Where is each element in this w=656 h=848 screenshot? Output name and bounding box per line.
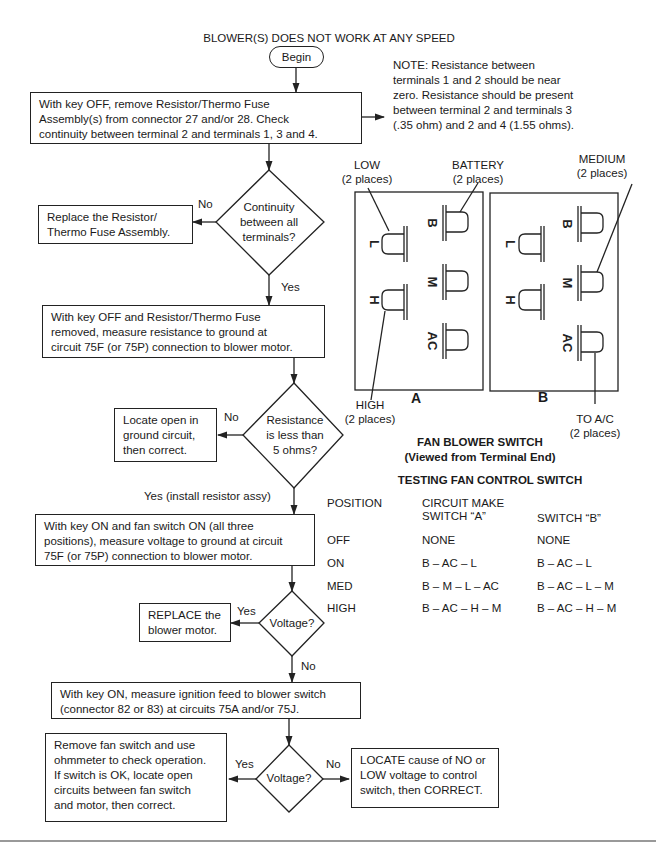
page-title: BLOWER(S) DOES NOT WORK AT ANY SPEED (174, 31, 484, 46)
table-row: OFF NONE NONE (0, 533, 656, 549)
action-line: LOW voltage to control (360, 768, 490, 783)
header-switch-b: SWITCH “B” (537, 511, 601, 526)
switch-a-label: A (411, 390, 421, 406)
decision-line: Continuity (226, 200, 312, 215)
terminal-h-b: H (503, 295, 518, 304)
test-table-header: POSITION CIRCUIT MAKE SWITCH “A” SWITCH … (0, 496, 656, 526)
terminal-m-a: M (425, 277, 440, 288)
header-position: POSITION (327, 496, 382, 511)
caption-line: FAN BLOWER SWITCH (380, 435, 580, 450)
label-line: (2 places) (340, 412, 400, 426)
terminal-h-a: H (367, 295, 382, 304)
action-locate-low-voltage: LOCATE cause of NO or LOW voltage to con… (351, 748, 499, 808)
step-line: continuity between terminal 2 and termin… (39, 127, 353, 142)
terminal-ac-a: AC (425, 332, 440, 351)
decision-continuity-yes-label: Yes (281, 280, 300, 294)
action-check-fan-switch: Remove fan switch and use ohmmeter to ch… (45, 733, 227, 822)
label-line: MEDIUM (567, 152, 637, 166)
table-row: MED B – M – L – AC B – AC – L – M (0, 579, 656, 595)
cell-position: OFF (327, 533, 350, 548)
step-line: circuit 75F (or 75P) connection to blowe… (51, 340, 316, 355)
step-line: With key OFF and Resistor/Thermo Fuse (51, 310, 316, 325)
decision-resistance: Resistance is less than 5 ohms? (254, 413, 336, 458)
cell-switch-a: B – AC – L (422, 556, 477, 571)
decision-line: terminals? (226, 230, 312, 245)
cell-position: HIGH (327, 601, 356, 616)
action-line: switch, then CORRECT. (360, 783, 490, 798)
action-replace-resistor: Replace the Resistor/ Thermo Fuse Assemb… (38, 205, 193, 244)
terminal-l-b: L (503, 240, 518, 248)
action-line: ground circuit, (123, 428, 208, 443)
action-line: and motor, then correct. (54, 798, 218, 813)
decision-voltage-switch-no-label: No (326, 757, 341, 771)
caption-line: (Viewed from Terminal End) (380, 450, 580, 465)
action-line: Thermo Fuse Assembly. (47, 225, 184, 240)
cell-switch-b: B – AC – H – M (537, 601, 616, 616)
decision-continuity-no-label: No (198, 197, 213, 211)
terminal-b-b: B (560, 219, 575, 228)
step-line: Assembly(s) from connector 27 and/or 28.… (39, 112, 353, 127)
cell-position: MED (327, 579, 353, 594)
terminal-l-a: L (367, 240, 382, 248)
cell-switch-b: B – AC – L – M (537, 579, 614, 594)
note-text: NOTE: Resistance between terminals 1 and… (393, 58, 653, 133)
step-line: removed, measure resistance to ground at (51, 325, 316, 340)
decision-line: Voltage? (258, 771, 320, 786)
note-line: NOTE: Resistance between (393, 58, 653, 73)
action-line: If switch is OK, locate open (54, 768, 218, 783)
step-line: (connector 82 or 83) at circuits 75A and… (60, 702, 352, 717)
decision-line: 5 ohms? (254, 443, 336, 458)
cell-position: ON (327, 556, 344, 571)
decision-voltage-switch-yes-label: Yes (235, 757, 254, 771)
decision-line: between all (226, 215, 312, 230)
cell-switch-a: NONE (422, 533, 455, 548)
label-line: BATTERY (443, 158, 513, 172)
switch-b-label: B (538, 389, 548, 405)
note-line: (.35 ohm) and 2 and 4 (1.55 ohms). (393, 118, 653, 133)
step-measure-resistance: With key OFF and Resistor/Thermo Fuse re… (42, 305, 325, 358)
step-line: With key ON, measure ignition feed to bl… (60, 687, 352, 702)
decision-resistance-no-label: No (224, 410, 239, 424)
switch-caption: FAN BLOWER SWITCH (Viewed from Terminal … (380, 435, 580, 465)
label-medium: MEDIUM (2 places) (567, 152, 637, 180)
terminal-m-b: M (560, 278, 575, 289)
action-line: LOCATE cause of NO or (360, 753, 490, 768)
action-line: blower motor. (148, 623, 222, 638)
label-line: HIGH (340, 398, 400, 412)
decision-continuity: Continuity between all terminals? (226, 200, 312, 245)
step-check-continuity: With key OFF, remove Resistor/Thermo Fus… (30, 92, 362, 144)
table-row: HIGH B – AC – H – M B – AC – H – M (0, 601, 656, 617)
terminal-ac-b: AC (560, 334, 575, 353)
action-line: Remove fan switch and use (54, 738, 218, 753)
label-line: (2 places) (443, 172, 513, 186)
label-line: (2 places) (337, 172, 397, 186)
test-table-title: TESTING FAN CONTROL SWITCH (380, 473, 600, 488)
cell-switch-a: B – AC – H – M (422, 601, 501, 616)
action-line: Replace the Resistor/ (47, 210, 184, 225)
decision-line: Resistance (254, 413, 336, 428)
action-line: Locate open in (123, 413, 208, 428)
table-row: ON B – AC – L B – AC – L (0, 556, 656, 572)
label-low: LOW (2 places) (337, 158, 397, 186)
terminal-b-a: B (425, 218, 440, 227)
label-line: TO A/C (563, 412, 627, 426)
begin-terminator: Begin (269, 46, 324, 68)
note-line: between terminal 2 and terminals 3 (393, 103, 653, 118)
label-high: HIGH (2 places) (340, 398, 400, 426)
cell-switch-b: NONE (537, 533, 570, 548)
label-line: (2 places) (567, 166, 637, 180)
label-battery: BATTERY (2 places) (443, 158, 513, 186)
decision-line: Voltage? (262, 616, 322, 631)
action-line: then correct. (123, 443, 208, 458)
action-line: ohmmeter to check operation. (54, 753, 218, 768)
action-locate-open-ground: Locate open in ground circuit, then corr… (114, 408, 217, 462)
note-line: terminals 1 and 2 should be near (393, 73, 653, 88)
cell-switch-b: B – AC – L (537, 556, 592, 571)
header-switch-a-2: SWITCH “A” (422, 509, 486, 524)
step-line: With key OFF, remove Resistor/Thermo Fus… (39, 97, 353, 112)
note-line: zero. Resistance should be present (393, 88, 653, 103)
decision-line: is less than (254, 428, 336, 443)
action-line: circuits between fan switch (54, 783, 218, 798)
decision-voltage-switch: Voltage? (258, 771, 320, 786)
decision-voltage-motor-no-label: No (301, 659, 316, 673)
